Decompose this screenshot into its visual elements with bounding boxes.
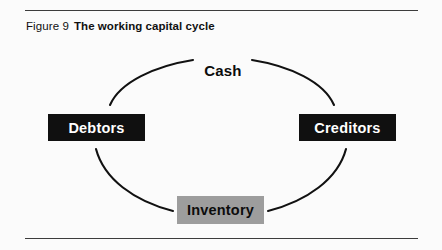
- top-divider-rule: [25, 10, 418, 11]
- working-capital-cycle-diagram: Cash Debtors Creditors Inventory: [0, 48, 442, 234]
- node-creditors: Creditors: [299, 114, 396, 141]
- bottom-divider-rule: [25, 238, 418, 239]
- arc-cash-to-creditors: [252, 60, 334, 105]
- node-creditors-label: Creditors: [314, 120, 380, 136]
- node-inventory: Inventory: [177, 196, 264, 224]
- arc-creditors-to-inventory: [268, 149, 346, 211]
- figure-number: Figure 9: [26, 20, 69, 32]
- node-debtors-label: Debtors: [68, 120, 124, 136]
- figure-page: Figure 9The working capital cycle Cash D…: [0, 0, 442, 250]
- arc-debtors-to-cash: [110, 60, 193, 105]
- node-cash-label: Cash: [204, 62, 241, 79]
- node-debtors: Debtors: [48, 114, 145, 141]
- arc-inventory-to-debtors: [96, 149, 173, 211]
- node-inventory-label: Inventory: [187, 202, 254, 218]
- node-cash: Cash: [196, 60, 250, 80]
- figure-title: The working capital cycle: [74, 20, 215, 32]
- figure-caption: Figure 9The working capital cycle: [26, 19, 215, 33]
